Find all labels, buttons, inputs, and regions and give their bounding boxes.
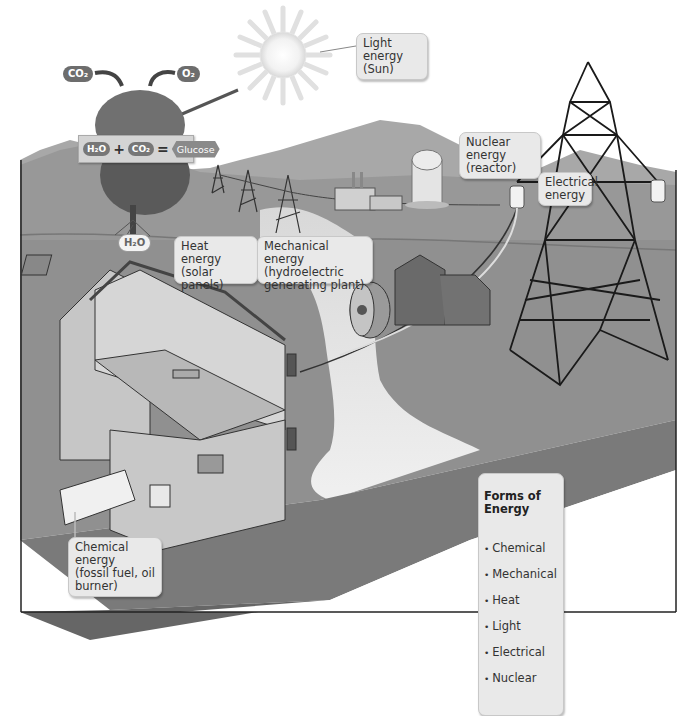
- equation-product-glucose: Glucose: [172, 141, 220, 158]
- callout-heat-energy: Heat energy (solar panels): [174, 236, 258, 284]
- photosynthesis-equation: H₂O + CO₂ = Glucose: [78, 135, 194, 163]
- equation-equals: =: [157, 141, 169, 157]
- legend-list: Chemical Mechanical Heat Light Electrica…: [484, 529, 558, 698]
- legend-title: Forms of Energy: [484, 490, 558, 516]
- co2-molecule-label: CO₂: [63, 66, 93, 82]
- callout-electrical-energy: Electrical energy: [538, 172, 592, 206]
- callout-nuclear-energy: Nuclear energy (reactor): [459, 132, 541, 179]
- legend-item-electrical: Electrical: [484, 646, 558, 659]
- legend-item-chemical: Chemical: [484, 542, 558, 555]
- sunlight-arrow: [175, 90, 238, 117]
- o2-molecule-label: O₂: [177, 66, 200, 82]
- nuclear-reactor-icon: [405, 150, 449, 209]
- h2o-molecule-label: H₂O: [118, 234, 151, 252]
- equation-reactant-water: H₂O: [83, 142, 110, 156]
- callout-light-energy: Light energy (Sun): [356, 33, 428, 80]
- insulator-left-icon: [510, 186, 524, 208]
- callout-chemical-energy: Chemical energy (fossil fuel, oil burner…: [68, 537, 162, 597]
- legend-item-light: Light: [484, 620, 558, 633]
- sun-icon: [236, 8, 330, 103]
- radiator-icon: [198, 455, 223, 473]
- insulator-right-icon: [651, 180, 665, 202]
- legend-item-heat: Heat: [484, 594, 558, 607]
- oil-burner-icon: [150, 485, 170, 507]
- solar-panel-icon: [21, 255, 51, 275]
- equation-reactant-co2: CO₂: [128, 142, 154, 156]
- desk-icon: [173, 370, 199, 378]
- legend-item-nuclear: Nuclear: [484, 672, 558, 685]
- legend-item-mechanical: Mechanical: [484, 568, 558, 581]
- callout-mechanical-energy: Mechanical energy (hydroelectric generat…: [257, 236, 373, 284]
- forms-of-energy-legend: Forms of Energy Chemical Mechanical Heat…: [478, 473, 564, 716]
- equation-plus: +: [113, 141, 125, 157]
